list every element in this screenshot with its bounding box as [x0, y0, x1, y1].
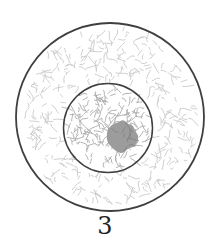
- cytoplasm-texture: [25, 27, 199, 204]
- nucleolus-blob: [107, 120, 139, 153]
- figure-number-label: 3: [75, 212, 135, 240]
- cell-diagram-figure: 3: [0, 0, 212, 244]
- cell-diagram-canvas: [0, 0, 212, 244]
